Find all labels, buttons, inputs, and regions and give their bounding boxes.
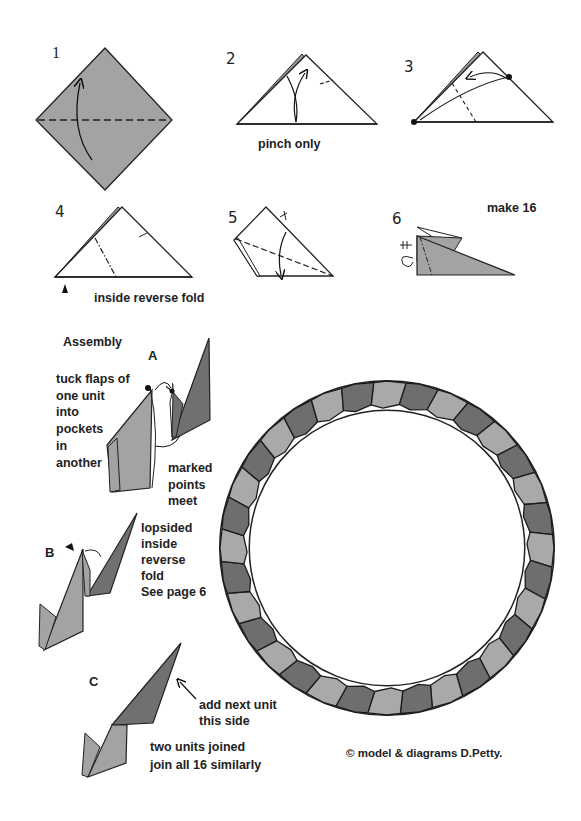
assembly-c-arrow-note: add next unit this side bbox=[199, 697, 277, 729]
step-number: 5 bbox=[228, 209, 238, 227]
assembly-letter: B bbox=[45, 545, 54, 560]
step-number: 1 bbox=[52, 44, 60, 62]
add-unit-arrow-icon bbox=[180, 682, 196, 699]
push-arrowhead-icon bbox=[62, 284, 68, 293]
marked-point-icon bbox=[411, 119, 417, 125]
marked-point-icon bbox=[170, 389, 175, 394]
step-caption: inside reverse fold bbox=[94, 290, 204, 307]
step-number: 3 bbox=[404, 58, 414, 76]
step-3-diagram bbox=[411, 52, 553, 125]
step-1-diagram bbox=[36, 48, 172, 190]
step-number: 4 bbox=[55, 203, 65, 221]
assembly-a-instruction: tuck flaps of one unit into pockets in a… bbox=[56, 371, 130, 471]
step-number: 6 bbox=[392, 210, 402, 228]
assembly-c-caption: two units joined join all 16 similarly bbox=[150, 738, 261, 774]
assembly-letter: A bbox=[148, 348, 157, 363]
step-6-diagram bbox=[400, 227, 515, 275]
assembly-b-diagram bbox=[39, 513, 137, 650]
step-number: 2 bbox=[226, 50, 236, 68]
marked-point-icon bbox=[506, 74, 512, 80]
tuck-arrow-icon bbox=[155, 382, 171, 390]
assembly-letter: C bbox=[89, 674, 98, 689]
assembly-title: Assembly bbox=[63, 334, 122, 351]
assembly-a-note: marked points meet bbox=[168, 460, 212, 510]
step-note: make 16 bbox=[487, 200, 536, 217]
finished-ring-diagram bbox=[220, 381, 554, 715]
step-caption: pinch only bbox=[258, 136, 321, 153]
copyright: © model & diagrams D.Petty. bbox=[346, 745, 503, 762]
assembly-b-instruction: lopsided inside reverse fold See page 6 bbox=[141, 520, 206, 600]
push-arrowhead-icon bbox=[65, 543, 74, 551]
step-5-diagram bbox=[234, 207, 333, 276]
step-2-diagram bbox=[237, 54, 377, 124]
step-4-diagram bbox=[55, 207, 192, 293]
marked-point-icon bbox=[145, 385, 151, 391]
